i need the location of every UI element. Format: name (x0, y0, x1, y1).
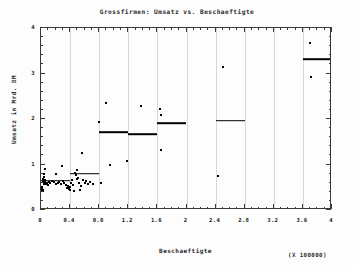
data-point (159, 108, 161, 110)
axis-tick-minor (222, 207, 223, 210)
axis-tick-major (244, 204, 245, 209)
x-tick-label: 0 (38, 217, 42, 223)
data-point (84, 182, 86, 184)
axis-tick-major (186, 204, 187, 209)
data-point (69, 186, 71, 188)
data-point (69, 189, 71, 191)
data-point (100, 182, 102, 184)
axis-tick-minor (142, 27, 143, 30)
axis-tick-minor (329, 191, 332, 192)
axis-tick-minor (207, 207, 208, 210)
axis-tick-major (326, 164, 331, 165)
axis-tick-minor (280, 207, 281, 210)
x-tick-label: 1.6 (151, 217, 162, 223)
axis-tick-minor (329, 200, 332, 201)
data-point (98, 121, 100, 123)
axis-tick-minor (171, 207, 172, 210)
data-point (82, 179, 84, 181)
axis-tick-minor (324, 207, 325, 210)
data-point (310, 76, 312, 78)
axis-tick-minor (329, 154, 332, 155)
gridline-vertical (274, 28, 275, 208)
data-point (140, 105, 142, 107)
y-tick-label: 1 (24, 161, 35, 167)
axis-tick-major (98, 204, 99, 209)
axis-tick-minor (91, 207, 92, 210)
axis-tick-minor (329, 54, 332, 55)
axis-tick-major (127, 27, 128, 32)
axis-tick-minor (329, 136, 332, 137)
axis-tick-minor (329, 173, 332, 174)
axis-tick-minor (84, 207, 85, 210)
axis-tick-minor (40, 63, 43, 64)
axis-tick-major (326, 209, 331, 210)
axis-tick-minor (229, 27, 230, 30)
axis-tick-minor (200, 27, 201, 30)
axis-tick-minor (316, 207, 317, 210)
axis-tick-minor (329, 45, 332, 46)
axis-tick-minor (40, 91, 43, 92)
axis-tick-minor (76, 207, 77, 210)
y-tick-label: 0 (24, 206, 35, 212)
axis-tick-minor (329, 109, 332, 110)
axis-tick-major (127, 204, 128, 209)
gridline-vertical (187, 28, 188, 208)
axis-tick-major (40, 73, 45, 74)
axis-tick-major (244, 27, 245, 32)
axis-tick-major (331, 27, 332, 32)
axis-tick-minor (40, 182, 43, 183)
axis-tick-minor (40, 54, 43, 55)
y-tick-label: 2 (24, 115, 35, 121)
axis-tick-minor (236, 27, 237, 30)
axis-tick-minor (40, 36, 43, 37)
data-point (105, 102, 107, 104)
gridline-vertical (128, 28, 129, 208)
axis-tick-minor (193, 27, 194, 30)
data-point (92, 183, 94, 185)
axis-tick-minor (40, 127, 43, 128)
axis-tick-major (326, 118, 331, 119)
x-tick-label: 1.2 (122, 217, 133, 223)
data-point (160, 114, 162, 116)
x-tick-label: 0.4 (64, 217, 75, 223)
data-point (49, 182, 51, 184)
axis-tick-minor (120, 27, 121, 30)
data-point (160, 149, 162, 151)
axis-tick-minor (266, 207, 267, 210)
axis-tick-minor (222, 27, 223, 30)
data-point (73, 190, 75, 192)
axis-tick-major (302, 204, 303, 209)
axis-tick-minor (76, 27, 77, 30)
axis-tick-minor (178, 207, 179, 210)
axis-tick-minor (149, 27, 150, 30)
axis-tick-minor (309, 27, 310, 30)
axis-tick-minor (280, 27, 281, 30)
axis-tick-major (69, 27, 70, 32)
axis-tick-minor (62, 27, 63, 30)
axis-tick-minor (251, 27, 252, 30)
x-tick-label: 4 (329, 217, 333, 223)
data-point (109, 164, 111, 166)
data-point (87, 183, 89, 185)
gridline-vertical (303, 28, 304, 208)
axis-tick-major (40, 118, 45, 119)
axis-tick-minor (47, 207, 48, 210)
data-point (80, 185, 82, 187)
axis-tick-minor (40, 136, 43, 137)
axis-tick-minor (295, 207, 296, 210)
axis-tick-major (331, 204, 332, 209)
axis-tick-minor (142, 207, 143, 210)
axis-tick-major (40, 209, 45, 210)
axis-tick-minor (236, 207, 237, 210)
gridline-vertical (216, 28, 217, 208)
data-point (222, 66, 224, 68)
axis-tick-major (98, 27, 99, 32)
axis-tick-minor (62, 207, 63, 210)
y-tick-label: 4 (24, 24, 35, 30)
data-point (77, 177, 79, 179)
y-axis-title: Umsatz in Mrd. DM (10, 50, 17, 170)
axis-tick-minor (258, 207, 259, 210)
axis-tick-minor (329, 36, 332, 37)
axis-tick-major (40, 27, 45, 28)
axis-tick-major (186, 27, 187, 32)
